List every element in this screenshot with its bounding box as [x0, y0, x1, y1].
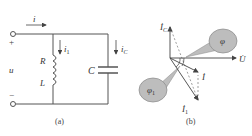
label-phi: φ — [220, 36, 225, 46]
label-i1: i1 — [64, 44, 70, 55]
label-iC: iC — [121, 44, 129, 55]
label-I1: İ1 — [181, 104, 188, 115]
circuit-diagram-a: i i1 iC R L C u + − (a) İC U̇ İ İ1 φ φ1 … — [0, 0, 252, 136]
label-U: U̇ — [239, 54, 246, 64]
label-u: u — [9, 65, 14, 75]
label-Ic: İC — [159, 22, 168, 33]
circuit — [11, 32, 119, 107]
inductor-coil — [53, 55, 56, 85]
label-plus: + — [9, 37, 14, 47]
label-L: L — [39, 78, 45, 88]
label-I: İ — [201, 72, 206, 82]
terminal-bottom — [11, 102, 16, 107]
label-i: i — [33, 14, 36, 24]
vector-I1 — [170, 58, 198, 100]
terminal-top — [11, 32, 16, 37]
label-R: R — [39, 56, 46, 66]
label-C: C — [88, 65, 95, 76]
caption-b: (b) — [186, 117, 196, 126]
label-minus: − — [9, 90, 14, 100]
caption-a: (a) — [55, 117, 64, 126]
